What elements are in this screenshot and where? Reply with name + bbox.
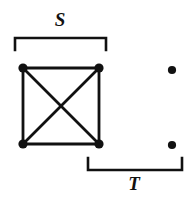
vertex-t-lower bbox=[168, 141, 176, 149]
vertex-s-bottom-left bbox=[18, 139, 27, 148]
graph-diagram-canvas bbox=[0, 0, 194, 200]
graph-figure: S T bbox=[0, 0, 194, 200]
vertex-s-bottom-right bbox=[94, 139, 103, 148]
vertex-t-upper bbox=[168, 66, 176, 74]
bracket-label-s: S bbox=[40, 10, 80, 29]
vertex-s-top-left bbox=[18, 63, 27, 72]
bracket-label-t: T bbox=[114, 174, 154, 193]
vertex-s-top-right bbox=[94, 63, 103, 72]
